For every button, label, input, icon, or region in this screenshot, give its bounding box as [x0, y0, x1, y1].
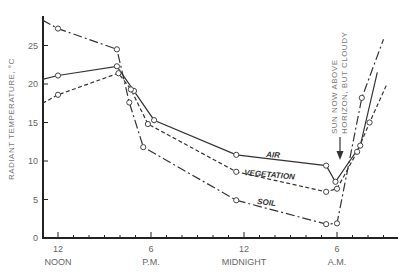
y-tick-label: 0	[33, 233, 38, 243]
data-point-marker	[114, 64, 119, 69]
data-point-marker	[141, 145, 146, 150]
data-point-marker	[358, 143, 363, 148]
x-tick-label: 6	[148, 244, 153, 254]
data-point-marker	[55, 73, 60, 78]
data-point-marker	[324, 189, 329, 194]
x-tick-sublabel: P.M.	[142, 257, 159, 267]
data-point-marker	[234, 198, 239, 203]
data-point-marker	[114, 47, 119, 52]
data-point-marker	[128, 87, 133, 92]
data-point-marker	[334, 186, 339, 191]
y-tick-label: 10	[28, 156, 38, 166]
annotation-line-2: HORIZON, BUT CLOUDY	[340, 32, 349, 134]
data-point-marker	[234, 152, 239, 157]
x-tick-label: 12	[53, 244, 63, 254]
x-tick-sublabel: A.M.	[328, 257, 347, 267]
y-tick-label: 5	[33, 195, 38, 205]
y-axis-label: RADIANT TEMPERATURE, °C	[7, 58, 16, 180]
y-tick-label: 20	[28, 79, 38, 89]
x-tick-label: 12	[239, 244, 249, 254]
data-point-marker	[55, 92, 60, 97]
x-tick-sublabel: NOON	[45, 257, 72, 267]
series-label-air: AIR	[265, 150, 281, 160]
data-point-marker	[355, 149, 360, 154]
data-point-marker	[324, 163, 329, 168]
data-markers	[55, 26, 372, 227]
data-point-marker	[234, 169, 239, 174]
data-point-marker	[333, 179, 338, 184]
annotation-line-1: SUN NOW ABOVE	[330, 59, 339, 134]
x-tick-sublabel: MIDNIGHT	[222, 257, 267, 267]
annotation-arrow-icon	[337, 137, 344, 160]
data-point-marker	[145, 121, 150, 126]
y-tick-label: 25	[28, 41, 38, 51]
data-point-marker	[127, 100, 132, 105]
y-tick-label: 15	[28, 118, 38, 128]
radiant-temperature-chart: 051015202512NOON6P.M.12MIDNIGHT6A.M. RAD…	[0, 0, 419, 277]
data-point-marker	[116, 71, 121, 76]
data-point-marker	[324, 222, 329, 227]
data-point-marker	[55, 26, 60, 31]
data-point-marker	[152, 118, 157, 123]
data-point-marker	[367, 120, 372, 125]
data-point-marker	[359, 95, 364, 100]
x-tick-label: 6	[334, 244, 339, 254]
data-point-marker	[334, 221, 339, 226]
